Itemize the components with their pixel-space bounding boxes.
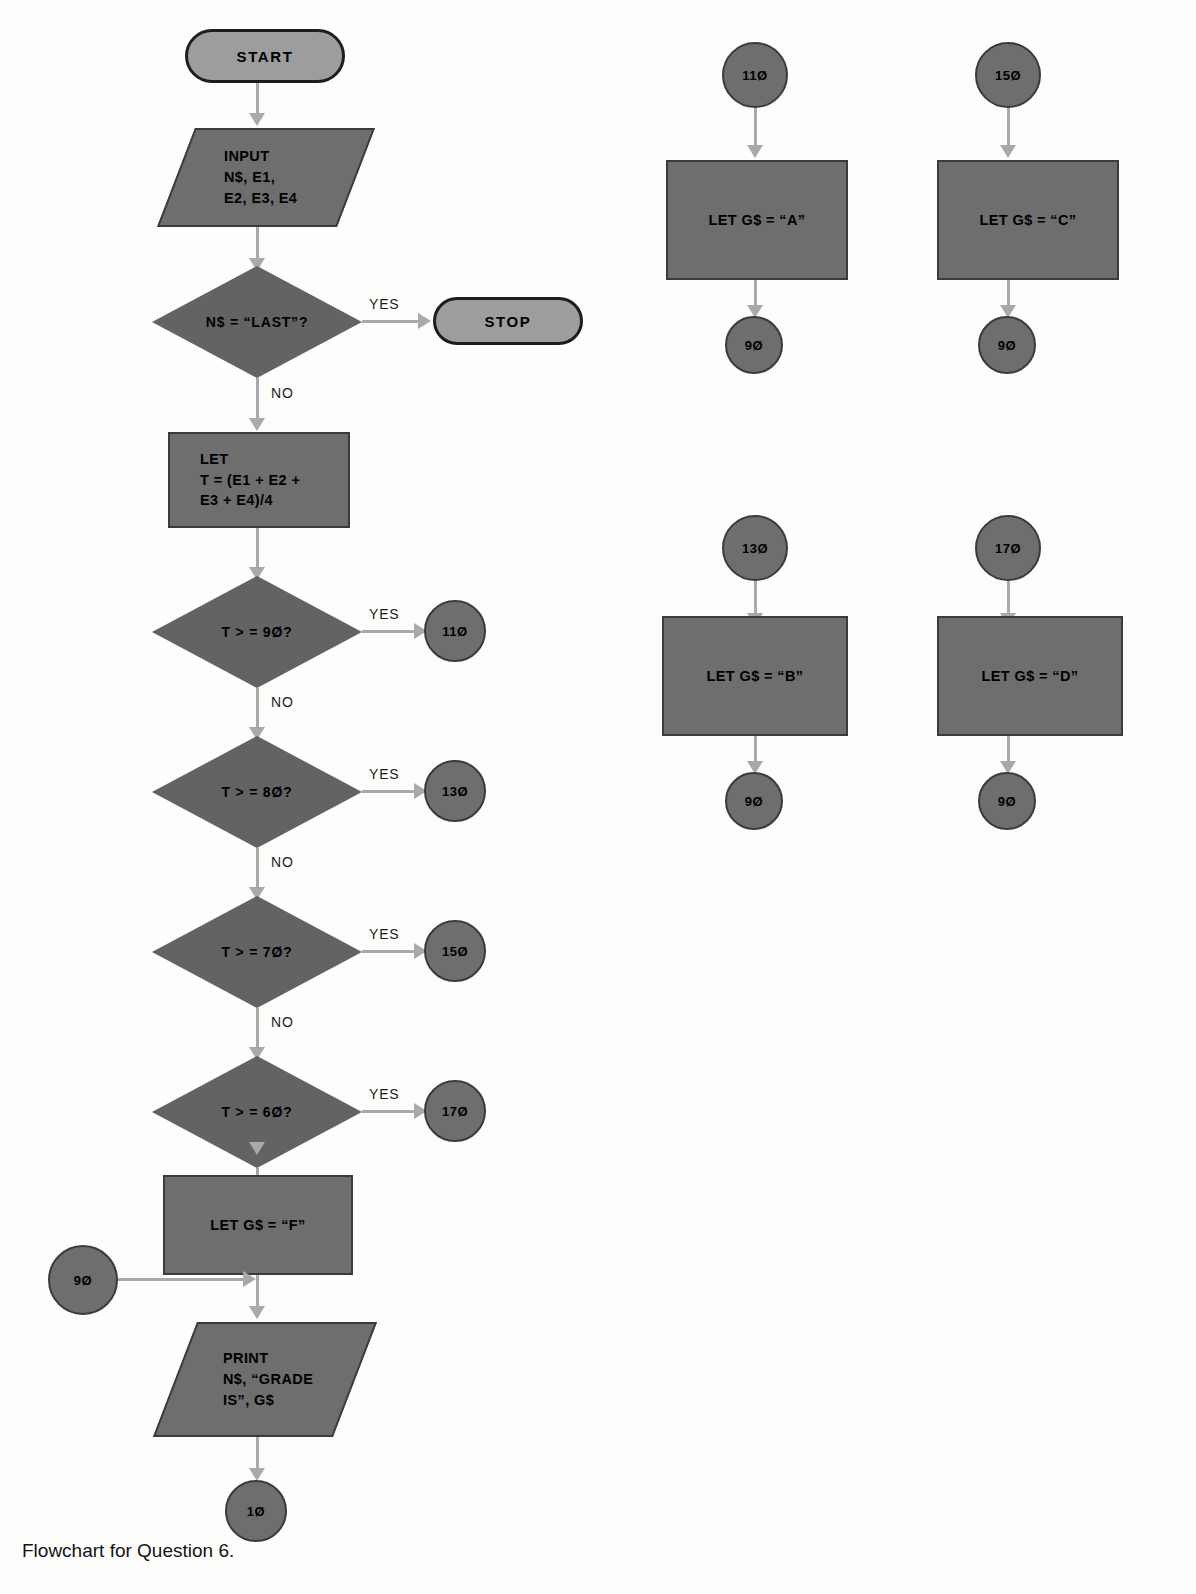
process-let-grade-f-label: LET G$ = “F”	[210, 1215, 305, 1236]
connector-130-entry-label: 13Ø	[742, 541, 768, 556]
connector-170-entry[interactable]: 17Ø	[975, 515, 1041, 581]
edge-start-to-input	[256, 83, 259, 117]
process-let-grade-c[interactable]: LET G$ = “C”	[937, 160, 1119, 280]
connector-170-entry-label: 17Ø	[995, 541, 1021, 556]
edge-60-yes	[362, 1110, 422, 1113]
decision-t-ge-70[interactable]: T > = 7Ø?	[152, 896, 362, 1008]
edge-label-no-3: NO	[271, 854, 294, 870]
figure-caption: Flowchart for Question 6.	[22, 1540, 234, 1562]
edge-90-yes	[362, 630, 422, 633]
connector-10[interactable]: 1Ø	[225, 1480, 287, 1542]
process-let-average[interactable]: LET T = (E1 + E2 + E3 + E4)/4	[168, 432, 350, 528]
arrowhead-let-c	[1000, 145, 1016, 158]
decision-t-ge-80[interactable]: T > = 8Ø?	[152, 736, 362, 848]
connector-170-label: 17Ø	[442, 1104, 468, 1119]
connector-110-label: 11Ø	[442, 624, 467, 639]
decision-t-ge-80-label: T > = 8Ø?	[222, 784, 293, 800]
process-let-grade-a-label: LET G$ = “A”	[708, 210, 805, 231]
decision-t-ge-70-label: T > = 7Ø?	[222, 944, 293, 960]
edge-label-yes-5: YES	[369, 1086, 399, 1102]
arrowhead-print	[249, 1306, 265, 1319]
connector-150-entry[interactable]: 15Ø	[975, 42, 1041, 108]
process-let-grade-b-label: LET G$ = “B”	[706, 666, 803, 687]
connector-130[interactable]: 13Ø	[424, 760, 486, 822]
connector-150-entry-label: 15Ø	[995, 68, 1021, 83]
connector-90-from-c-label: 9Ø	[998, 338, 1016, 353]
edge-label-no-1: NO	[271, 385, 294, 401]
arrowhead-stop	[418, 313, 431, 329]
decision-t-ge-60-label: T > = 6Ø?	[222, 1104, 293, 1120]
process-let-grade-f[interactable]: LET G$ = “F”	[163, 1175, 353, 1275]
connector-170[interactable]: 17Ø	[424, 1080, 486, 1142]
connector-90-entry-label: 9Ø	[74, 1273, 92, 1288]
io-input-label: INPUT N$, E1, E2, E3, E4	[178, 146, 297, 209]
edge-label-yes-4: YES	[369, 926, 399, 942]
arrowhead-let-f	[249, 1142, 265, 1155]
connector-90-from-b[interactable]: 9Ø	[725, 772, 783, 830]
flowchart-page: START INPUT N$, E1, E2, E3, E4 N$ = “LAS…	[0, 0, 1196, 1594]
connector-90-from-a-label: 9Ø	[745, 338, 763, 353]
arrowhead-let-a	[747, 145, 763, 158]
process-let-grade-c-label: LET G$ = “C”	[979, 210, 1076, 231]
connector-90-from-d[interactable]: 9Ø	[978, 772, 1036, 830]
io-print-label: PRINT N$, “GRADE IS”, G$	[177, 1348, 313, 1411]
edge-label-no-4: NO	[271, 1014, 294, 1030]
edge-label-yes-3: YES	[369, 766, 399, 782]
edge-70-yes	[362, 950, 422, 953]
arrowhead-join-print	[243, 1271, 256, 1287]
edge-80-yes	[362, 790, 422, 793]
edge-90-entry-join	[118, 1278, 251, 1281]
connector-130-entry[interactable]: 13Ø	[722, 515, 788, 581]
connector-150[interactable]: 15Ø	[424, 920, 486, 982]
decision-is-last[interactable]: N$ = “LAST”?	[152, 266, 362, 378]
edge-label-yes-1: YES	[369, 296, 399, 312]
process-let-grade-d[interactable]: LET G$ = “D”	[937, 616, 1123, 736]
decision-t-ge-90[interactable]: T > = 9Ø?	[152, 576, 362, 688]
arrowhead-let-average	[249, 418, 265, 431]
io-print[interactable]: PRINT N$, “GRADE IS”, G$	[153, 1322, 377, 1437]
terminal-start-label: START	[237, 48, 294, 65]
process-let-grade-a[interactable]: LET G$ = “A”	[666, 160, 848, 280]
process-let-grade-d-label: LET G$ = “D”	[981, 666, 1078, 687]
terminal-stop-label: STOP	[485, 313, 532, 330]
terminal-stop[interactable]: STOP	[433, 297, 583, 345]
io-input[interactable]: INPUT N$, E1, E2, E3, E4	[157, 128, 375, 227]
process-let-grade-b[interactable]: LET G$ = “B”	[662, 616, 848, 736]
arrowhead-input	[249, 113, 265, 126]
connector-90-entry[interactable]: 9Ø	[48, 1245, 118, 1315]
connector-110[interactable]: 11Ø	[424, 600, 486, 662]
process-let-average-label: LET T = (E1 + E2 + E3 + E4)/4	[170, 449, 300, 511]
connector-150-label: 15Ø	[442, 944, 468, 959]
connector-90-from-b-label: 9Ø	[745, 794, 763, 809]
connector-110-entry-label: 11Ø	[742, 68, 767, 83]
decision-is-last-label: N$ = “LAST”?	[206, 314, 309, 330]
edge-label-yes-2: YES	[369, 606, 399, 622]
terminal-start[interactable]: START	[185, 29, 345, 83]
edge-label-no-2: NO	[271, 694, 294, 710]
connector-130-label: 13Ø	[442, 784, 468, 799]
connector-90-from-c[interactable]: 9Ø	[978, 316, 1036, 374]
connector-90-from-d-label: 9Ø	[998, 794, 1016, 809]
connector-110-entry[interactable]: 11Ø	[722, 42, 788, 108]
decision-t-ge-90-label: T > = 9Ø?	[222, 624, 293, 640]
edge-last-yes	[362, 320, 426, 323]
connector-90-from-a[interactable]: 9Ø	[725, 316, 783, 374]
connector-10-label: 1Ø	[247, 1504, 265, 1519]
